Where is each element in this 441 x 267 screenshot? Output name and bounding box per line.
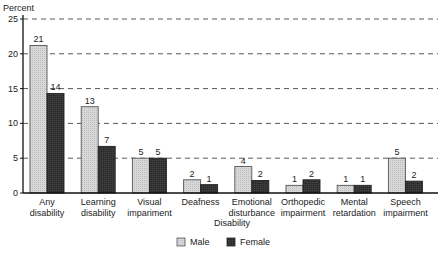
y-tick-label: 5: [13, 153, 18, 163]
x-axis-category-labels: AnydisabilityLearningdisabilityVisualimp…: [30, 197, 428, 218]
bar-male: [81, 107, 98, 193]
bar-value-label: 2: [258, 169, 263, 179]
bar-group: 12: [286, 169, 320, 193]
x-category-label: impairment: [383, 208, 428, 218]
bar-group: 52: [388, 147, 422, 193]
bar-value-label: 4: [241, 156, 246, 166]
bar-value-label: 5: [138, 147, 143, 157]
bar-male: [235, 167, 252, 193]
x-category-label: retardation: [333, 208, 376, 218]
bar-value-label: 21: [33, 34, 43, 44]
bar-female: [149, 158, 166, 193]
y-tick-label: 20: [8, 49, 18, 59]
x-category-label: impariment: [127, 208, 172, 218]
bar-female: [405, 181, 422, 193]
bar-value-label: 14: [50, 82, 60, 92]
bar-female: [303, 180, 320, 193]
bar-female: [252, 180, 269, 193]
bar-male: [30, 45, 47, 193]
bar-value-label: 7: [104, 135, 109, 145]
x-category-label: disability: [30, 208, 65, 218]
bar-group: 11: [337, 174, 371, 193]
bar-value-label: 13: [85, 96, 95, 106]
x-category-label: Speech: [390, 197, 421, 207]
bar-value-label: 1: [360, 174, 365, 184]
bar-value-label: 1: [292, 174, 297, 184]
x-category-label: Emotional: [232, 197, 272, 207]
x-category-label: Visual: [137, 197, 161, 207]
bar-female: [98, 146, 115, 193]
y-axis-label: Percent: [3, 3, 35, 13]
legend-swatch-male: [177, 238, 185, 246]
y-tick-label: 25: [8, 14, 18, 24]
x-category-label: Mental: [341, 197, 368, 207]
bar-group: 2114: [30, 34, 64, 193]
bar-female: [47, 93, 64, 193]
bar-male: [286, 185, 303, 193]
legend: Male Female: [177, 237, 270, 247]
bar-group: 137: [81, 96, 115, 193]
y-tick-label: 15: [8, 84, 18, 94]
bar-female: [354, 185, 371, 193]
bar-value-label: 5: [394, 147, 399, 157]
bar-male: [184, 180, 201, 193]
x-category-label: Learning: [81, 197, 116, 207]
x-category-label: disturbance: [229, 208, 276, 218]
bar-value-label: 2: [411, 170, 416, 180]
x-category-label: Orthopedic: [281, 197, 326, 207]
bar-value-label: 2: [190, 169, 195, 179]
bar-male: [388, 158, 405, 193]
y-axis-ticks: 0510152025: [8, 14, 23, 198]
bar-male: [337, 185, 354, 193]
bar-female: [201, 185, 218, 193]
bar-group: 42: [235, 156, 269, 193]
legend-item-female: Female: [227, 237, 270, 247]
bar-value-label: 1: [207, 174, 212, 184]
bar-group: 55: [132, 147, 166, 193]
x-axis-label: Disability: [214, 218, 251, 228]
x-category-label: Deafness: [182, 197, 221, 207]
bar-value-label: 5: [155, 147, 160, 157]
x-category-label: Any: [39, 197, 55, 207]
y-tick-label: 10: [8, 118, 18, 128]
bar-chart: Percent 0510152025 2114137552142121152 A…: [0, 0, 441, 267]
x-category-label: impairment: [281, 208, 326, 218]
x-category-label: disability: [81, 208, 116, 218]
legend-label-male: Male: [190, 237, 210, 247]
legend-item-male: Male: [177, 237, 210, 247]
legend-label-female: Female: [240, 237, 270, 247]
bars: 2114137552142121152: [30, 34, 422, 193]
bar-group: 21: [184, 169, 218, 193]
bar-value-label: 2: [309, 169, 314, 179]
bar-value-label: 1: [343, 174, 348, 184]
bar-male: [132, 158, 149, 193]
y-tick-label: 0: [13, 188, 18, 198]
legend-swatch-female: [227, 238, 235, 246]
